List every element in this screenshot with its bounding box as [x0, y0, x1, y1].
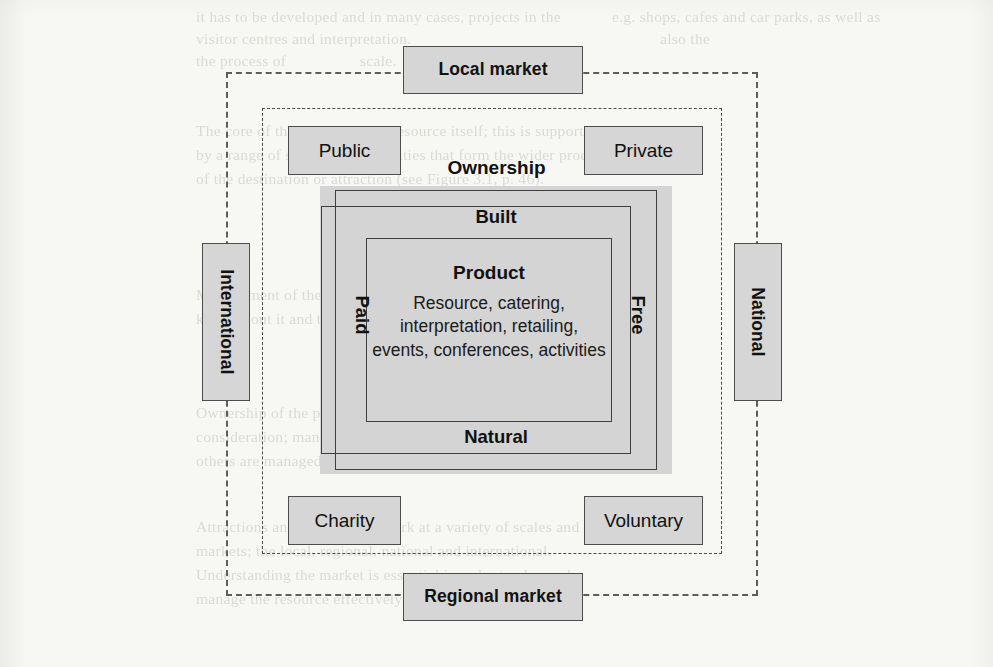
product-text-block: Product Resource, catering, interpretati… [370, 262, 608, 362]
product-heading: Product [370, 262, 608, 284]
chip-international: International [202, 243, 250, 401]
chip-private: Private [584, 126, 703, 175]
bleed-through-line: scale. [360, 52, 397, 70]
chip-voluntary: Voluntary [584, 496, 703, 545]
chip-public-label: Public [319, 140, 371, 161]
chip-local-market-label: Local market [438, 60, 547, 80]
chip-charity-label: Charity [314, 510, 374, 531]
label-natural: Natural [320, 426, 672, 448]
chip-local-market: Local market [403, 46, 583, 94]
chip-private-label: Private [614, 140, 673, 161]
chip-national-label: National [748, 287, 768, 356]
chip-regional-market: Regional market [403, 573, 583, 621]
chip-regional-market-label: Regional market [424, 587, 562, 607]
label-free-text: Free [627, 295, 649, 334]
core-product-composition: Built Natural Paid Free Product Resource… [320, 186, 672, 474]
bleed-through-line: visitor centres and interpretation. [196, 30, 411, 48]
product-items-list: Resource, catering, interpretation, reta… [370, 292, 608, 362]
label-free: Free [618, 304, 657, 326]
chip-national: National [734, 243, 782, 401]
scanned-page: it has to be developed and in many cases… [0, 0, 993, 667]
bleed-through-line: e.g. shops, cafes and car parks, as well… [612, 8, 881, 26]
chip-international-label: International [216, 269, 236, 374]
bleed-through-line: it has to be developed and in many cases… [196, 8, 561, 26]
label-built: Built [320, 206, 672, 228]
chip-public: Public [288, 126, 401, 175]
chip-charity: Charity [288, 496, 401, 545]
chip-voluntary-label: Voluntary [604, 510, 683, 531]
bleed-through-line: also the [660, 30, 710, 48]
bleed-through-line: the process of [196, 52, 286, 70]
ownership-heading: Ownership [0, 157, 993, 179]
